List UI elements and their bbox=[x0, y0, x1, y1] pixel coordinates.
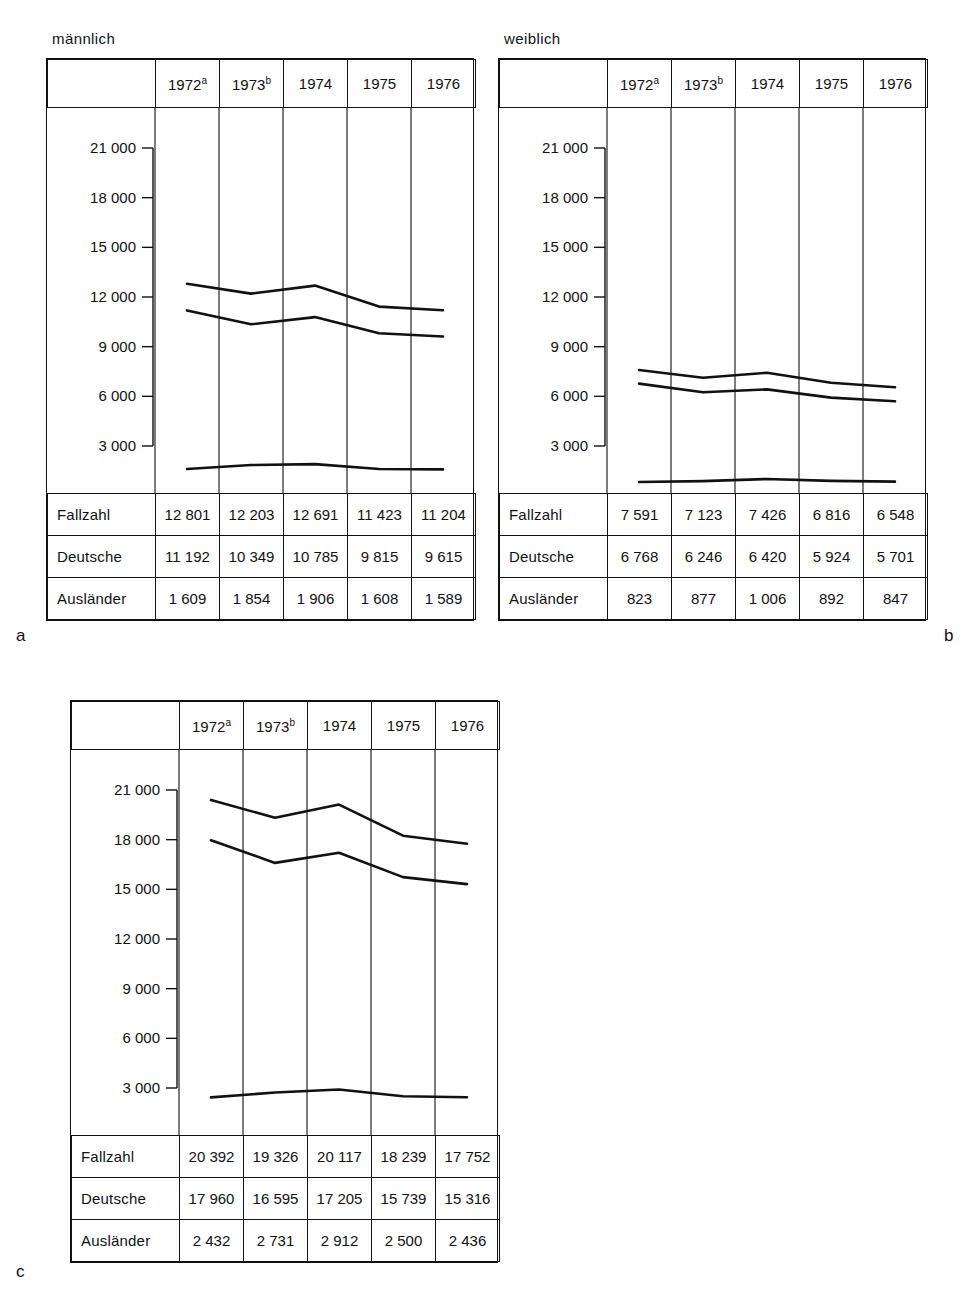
y-tick-label: 12 000 bbox=[114, 930, 160, 947]
panel-index-c: c bbox=[16, 1262, 25, 1282]
cell-b-0-2: 7 426 bbox=[736, 494, 800, 536]
year-footnote-marker: a bbox=[225, 717, 231, 728]
series-line-fallzahl bbox=[211, 800, 467, 844]
year-label: 1973 bbox=[684, 76, 717, 93]
panel-c-header-table: 1972a1973b197419751976 bbox=[71, 701, 500, 750]
row-label-fallzahl: Fallzahl bbox=[72, 1136, 180, 1178]
panel-index-b: b bbox=[944, 626, 953, 646]
year-footnote-marker: b bbox=[289, 717, 295, 728]
header-corner-cell bbox=[48, 60, 156, 108]
cell-b-0-0: 7 591 bbox=[608, 494, 672, 536]
row-label-auslnder: Ausländer bbox=[500, 578, 608, 620]
cell-b-1-2: 6 420 bbox=[736, 536, 800, 578]
year-label: 1973 bbox=[232, 76, 265, 93]
cell-a-1-0: 11 192 bbox=[156, 536, 220, 578]
panel-c-plot: 21 00018 00015 00012 0009 0006 0003 000 bbox=[71, 750, 497, 1135]
cell-c-1-1: 16 595 bbox=[244, 1178, 308, 1220]
row-label-auslnder: Ausländer bbox=[48, 578, 156, 620]
panel-c-data-table: Fallzahl20 39219 32620 11718 23917 752De… bbox=[71, 1135, 500, 1262]
header-year-1975: 1975 bbox=[800, 60, 864, 108]
table-row: Ausländer2 4322 7312 9122 5002 436 bbox=[72, 1220, 500, 1262]
y-tick-label: 21 000 bbox=[90, 139, 136, 156]
table-row: Ausländer1 6091 8541 9061 6081 589 bbox=[48, 578, 476, 620]
cell-a-0-4: 11 204 bbox=[412, 494, 476, 536]
series-line-auslnder bbox=[639, 479, 895, 482]
y-tick-label: 6 000 bbox=[98, 387, 136, 404]
cell-c-0-3: 18 239 bbox=[372, 1136, 436, 1178]
y-tick-label: 9 000 bbox=[98, 338, 136, 355]
table-row: Ausländer8238771 006892847 bbox=[500, 578, 928, 620]
year-label: 1974 bbox=[751, 75, 784, 92]
header-corner-cell bbox=[500, 60, 608, 108]
cell-c-1-2: 17 205 bbox=[308, 1178, 372, 1220]
panel-a: 1972a1973b19741975197621 00018 00015 000… bbox=[46, 58, 474, 621]
year-label: 1972 bbox=[168, 76, 201, 93]
y-tick-label: 18 000 bbox=[90, 189, 136, 206]
series-line-deutsche bbox=[639, 384, 895, 402]
panel-caption-b: weiblich bbox=[504, 30, 561, 47]
panel-caption-a: männlich bbox=[52, 30, 115, 47]
header-year-1974: 1974 bbox=[308, 702, 372, 750]
cell-b-2-1: 877 bbox=[672, 578, 736, 620]
y-tick-label: 15 000 bbox=[542, 238, 588, 255]
cell-b-2-2: 1 006 bbox=[736, 578, 800, 620]
y-tick-label: 15 000 bbox=[114, 880, 160, 897]
cell-c-2-2: 2 912 bbox=[308, 1220, 372, 1262]
cell-c-2-4: 2 436 bbox=[436, 1220, 500, 1262]
series-line-deutsche bbox=[211, 840, 467, 884]
header-row: 1972a1973b197419751976 bbox=[500, 60, 928, 108]
cell-c-1-0: 17 960 bbox=[180, 1178, 244, 1220]
cell-a-1-3: 9 815 bbox=[348, 536, 412, 578]
series-line-auslnder bbox=[211, 1090, 467, 1098]
header-year-1974: 1974 bbox=[284, 60, 348, 108]
year-footnote-marker: b bbox=[717, 75, 723, 86]
cell-c-0-4: 17 752 bbox=[436, 1136, 500, 1178]
header-year-1976: 1976 bbox=[412, 60, 476, 108]
y-tick-label: 6 000 bbox=[550, 387, 588, 404]
panel-a-plot: 21 00018 00015 00012 0009 0006 0003 000 bbox=[47, 108, 473, 493]
year-label: 1976 bbox=[879, 75, 912, 92]
header-corner-cell bbox=[72, 702, 180, 750]
y-tick-label: 9 000 bbox=[550, 338, 588, 355]
table-row: Deutsche6 7686 2466 4205 9245 701 bbox=[500, 536, 928, 578]
cell-b-1-1: 6 246 bbox=[672, 536, 736, 578]
year-label: 1976 bbox=[427, 75, 460, 92]
cell-b-2-4: 847 bbox=[864, 578, 928, 620]
year-footnote-marker: b bbox=[265, 75, 271, 86]
cell-c-0-2: 20 117 bbox=[308, 1136, 372, 1178]
table-row: Fallzahl12 80112 20312 69111 42311 204 bbox=[48, 494, 476, 536]
cell-a-1-1: 10 349 bbox=[220, 536, 284, 578]
header-year-1973: 1973b bbox=[220, 60, 284, 108]
cell-a-0-0: 12 801 bbox=[156, 494, 220, 536]
row-label-fallzahl: Fallzahl bbox=[500, 494, 608, 536]
cell-a-2-4: 1 589 bbox=[412, 578, 476, 620]
panel-b: 1972a1973b19741975197621 00018 00015 000… bbox=[498, 58, 926, 621]
year-footnote-marker: a bbox=[653, 75, 659, 86]
cell-b-2-0: 823 bbox=[608, 578, 672, 620]
cell-b-1-0: 6 768 bbox=[608, 536, 672, 578]
cell-a-2-1: 1 854 bbox=[220, 578, 284, 620]
year-label: 1974 bbox=[299, 75, 332, 92]
cell-a-0-2: 12 691 bbox=[284, 494, 348, 536]
y-tick-label: 9 000 bbox=[122, 980, 160, 997]
series-line-deutsche bbox=[187, 310, 443, 336]
cell-b-1-3: 5 924 bbox=[800, 536, 864, 578]
y-tick-label: 12 000 bbox=[90, 288, 136, 305]
year-label: 1973 bbox=[256, 718, 289, 735]
panel-b-plot: 21 00018 00015 00012 0009 0006 0003 000 bbox=[499, 108, 925, 493]
cell-a-0-1: 12 203 bbox=[220, 494, 284, 536]
table-row: Deutsche17 96016 59517 20515 73915 316 bbox=[72, 1178, 500, 1220]
panel-c: 1972a1973b19741975197621 00018 00015 000… bbox=[70, 700, 498, 1263]
row-label-deutsche: Deutsche bbox=[72, 1178, 180, 1220]
y-tick-label: 6 000 bbox=[122, 1029, 160, 1046]
cell-c-2-0: 2 432 bbox=[180, 1220, 244, 1262]
y-tick-label: 18 000 bbox=[114, 831, 160, 848]
header-year-1972: 1972a bbox=[180, 702, 244, 750]
table-row: Deutsche11 19210 34910 7859 8159 615 bbox=[48, 536, 476, 578]
cell-a-2-3: 1 608 bbox=[348, 578, 412, 620]
cell-a-1-4: 9 615 bbox=[412, 536, 476, 578]
header-year-1973: 1973b bbox=[244, 702, 308, 750]
cell-b-0-3: 6 816 bbox=[800, 494, 864, 536]
header-year-1976: 1976 bbox=[864, 60, 928, 108]
row-label-deutsche: Deutsche bbox=[500, 536, 608, 578]
